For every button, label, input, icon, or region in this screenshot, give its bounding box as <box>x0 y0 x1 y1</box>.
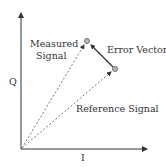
diagram-svg: Measured Signal Error Vector Reference S… <box>0 0 166 167</box>
reference-signal-label: Reference Signal <box>76 103 159 114</box>
measured-point <box>85 39 90 44</box>
x-axis-label: I <box>81 152 85 163</box>
measured-label-line2: Signal <box>36 50 66 61</box>
iq-diagram: Measured Signal Error Vector Reference S… <box>0 0 166 167</box>
y-axis-label: Q <box>9 76 17 87</box>
error-vector-label: Error Vector <box>107 44 166 55</box>
reference-point <box>113 67 118 72</box>
measured-label-line1: Measured <box>30 38 78 49</box>
